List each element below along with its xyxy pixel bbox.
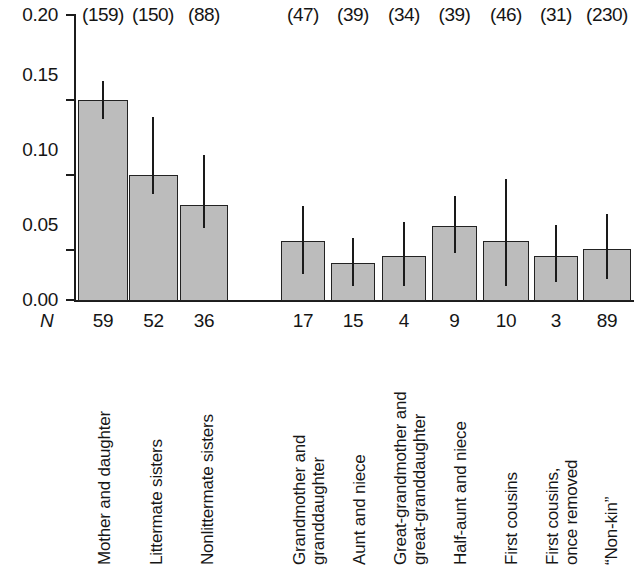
error-bar-9 (606, 214, 608, 279)
y-axis-line (74, 14, 76, 302)
error-bar-6 (454, 196, 456, 253)
category-label-9: “Non-kin” (603, 497, 621, 565)
count-label-7: (46) (483, 4, 529, 26)
category-label-1: Littermate sisters (148, 439, 166, 565)
error-bar-0 (102, 81, 104, 119)
n-value-2: 36 (180, 310, 228, 332)
category-label-4: Aunt and niece (351, 454, 369, 565)
error-bar-1 (152, 117, 154, 194)
error-bar-2 (203, 155, 205, 228)
n-value-6: 9 (432, 310, 477, 332)
error-bar-3 (302, 206, 304, 274)
category-label-5-line-1: Great-grandmother and (392, 392, 410, 565)
n-value-3: 17 (281, 310, 325, 332)
n-row-symbol: N (40, 310, 54, 332)
category-label-3-line-2: granddaughter (310, 457, 328, 565)
n-value-0: 59 (78, 310, 128, 332)
count-label-9: (230) (581, 4, 633, 26)
ytick-label-1: 0.15 (0, 64, 58, 86)
count-label-3: (47) (281, 4, 325, 26)
category-label-2: Nonlittermate sisters (199, 414, 217, 565)
category-label-0: Mother and daughter (96, 411, 114, 565)
ytick-label-4: 0.00 (0, 289, 58, 311)
error-bar-4 (352, 238, 354, 286)
n-value-8: 3 (534, 310, 578, 332)
n-value-4: 15 (331, 310, 375, 332)
category-label-7: First cousins (503, 472, 521, 565)
count-label-6: (39) (432, 4, 477, 26)
count-label-2: (88) (180, 4, 228, 26)
ytick-label-2: 0.10 (0, 139, 58, 161)
n-value-9: 89 (583, 310, 631, 332)
ytick-label-0: 0.20 (0, 4, 58, 26)
count-label-5: (34) (382, 4, 426, 26)
category-label-6: Half-aunt and niece (452, 421, 470, 565)
count-label-4: (39) (331, 4, 375, 26)
count-label-0: (159) (78, 4, 128, 26)
category-label-3-line-1: Grandmother and (291, 435, 309, 565)
count-label-1: (150) (128, 4, 178, 26)
count-label-8: (31) (534, 4, 578, 26)
error-bar-5 (403, 222, 405, 286)
n-value-7: 10 (483, 310, 529, 332)
bar-0 (78, 100, 128, 301)
bar-chart-figure: 0.20 0.15 0.10 0.05 0.00 (159) (150) (88… (0, 0, 640, 570)
category-label-8-line-1: First cousins, (544, 468, 562, 565)
category-label-5-line-2: great-granddaughter (411, 414, 429, 565)
error-bar-8 (555, 225, 557, 282)
n-value-1: 52 (129, 310, 178, 332)
n-value-5: 4 (382, 310, 426, 332)
ytick-label-3: 0.05 (0, 214, 58, 236)
category-label-8-line-2: once removed (563, 460, 581, 565)
error-bar-7 (505, 179, 507, 286)
